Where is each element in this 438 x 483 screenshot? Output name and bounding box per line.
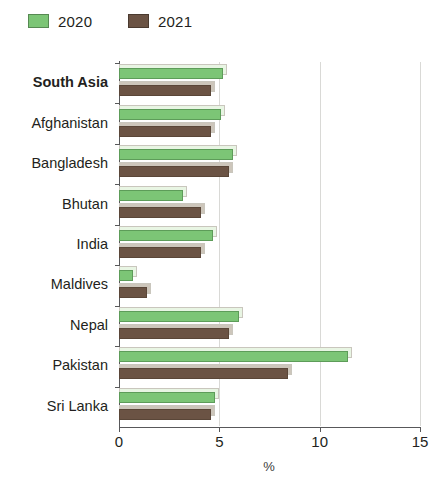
x-axis-tick-mark [420, 428, 421, 432]
bar-2021-bangladesh [119, 166, 229, 177]
bar-2021-sri-lanka [119, 409, 211, 420]
bar-2020-south-asia [119, 68, 223, 79]
bar-2021-bhutan [119, 207, 201, 218]
category-label-sri-lanka: Sri Lanka [47, 399, 108, 414]
bar-2021-india [119, 247, 201, 258]
gridline [420, 62, 421, 426]
legend-item-2020: 2020 [28, 8, 92, 34]
category-label-south-asia: South Asia [33, 75, 108, 90]
x-axis-tick-label: 0 [115, 433, 123, 450]
x-axis-tick-mark [219, 428, 220, 432]
legend-label-2020: 2020 [58, 13, 92, 30]
x-axis-tick-label: 5 [215, 433, 223, 450]
legend-label-2021: 2021 [158, 13, 192, 30]
legend-swatch-2021 [128, 14, 149, 28]
bar-2020-afghanistan [119, 109, 221, 120]
x-axis-line [119, 427, 421, 428]
category-label-maldives: Maldives [51, 277, 108, 292]
category-label-afghanistan: Afghanistan [31, 115, 108, 130]
bar-2021-afghanistan [119, 126, 211, 137]
bar-2021-south-asia [119, 85, 211, 96]
chart-category-row: Bangladesh [119, 143, 420, 183]
legend-item-2021: 2021 [128, 8, 192, 34]
chart-category-row: Afghanistan [119, 102, 420, 142]
category-label-nepal: Nepal [70, 318, 108, 333]
x-axis-tick-label: 15 [412, 433, 429, 450]
bar-2021-pakistan [119, 368, 288, 379]
chart-category-row: South Asia [119, 62, 420, 102]
legend-swatch-2020 [28, 14, 49, 28]
category-label-bangladesh: Bangladesh [31, 156, 108, 171]
bar-2020-pakistan [119, 351, 348, 362]
bar-2021-maldives [119, 287, 147, 298]
chart-category-row: Sri Lanka [119, 386, 420, 426]
bar-2020-bhutan [119, 190, 183, 201]
chart-category-row: Pakistan [119, 345, 420, 385]
bar-chart: 2020 2021 South AsiaAfghanistanBanglades… [0, 0, 438, 483]
bar-2021-nepal [119, 328, 229, 339]
chart-category-row: India [119, 224, 420, 264]
x-axis-tick-mark [320, 428, 321, 432]
x-axis-tick-mark [119, 428, 120, 432]
bar-2020-india [119, 230, 213, 241]
chart-legend: 2020 2021 [0, 8, 438, 38]
category-label-india: India [77, 237, 108, 252]
category-label-pakistan: Pakistan [52, 358, 108, 373]
bar-2020-sri-lanka [119, 392, 215, 403]
bar-2020-maldives [119, 270, 133, 281]
bar-2020-nepal [119, 311, 239, 322]
x-axis-tick-label: 10 [311, 433, 328, 450]
x-axis-title: % [263, 459, 275, 474]
plot-area: South AsiaAfghanistanBangladeshBhutanInd… [119, 62, 420, 426]
bar-2020-bangladesh [119, 149, 233, 160]
chart-category-row: Maldives [119, 264, 420, 304]
category-label-bhutan: Bhutan [62, 196, 108, 211]
chart-category-row: Bhutan [119, 183, 420, 223]
chart-category-row: Nepal [119, 305, 420, 345]
